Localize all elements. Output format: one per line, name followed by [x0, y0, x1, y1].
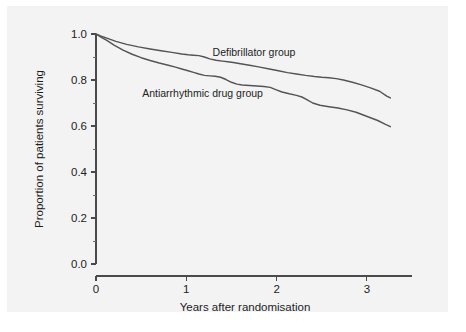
curve-label: Defibrillator group — [213, 46, 296, 58]
x-axis: 0123 — [93, 276, 412, 295]
survival-plot: 0.00.20.40.60.81.0 0123 Defibrillator gr… — [7, 6, 448, 312]
series-annotations: Defibrillator groupAntiarrhythmic drug g… — [142, 46, 295, 99]
x-tick-label: 3 — [364, 283, 370, 295]
y-tick-label: 1.0 — [71, 28, 87, 40]
x-tick-label: 2 — [273, 283, 279, 295]
figure-root: 0.00.20.40.60.81.0 0123 Defibrillator gr… — [0, 0, 466, 332]
y-axis: 0.00.20.40.60.81.0 — [71, 28, 96, 270]
y-tick-label: 0.6 — [71, 120, 87, 132]
y-tick-label: 0.8 — [71, 74, 87, 86]
y-tick-label: 0.4 — [71, 166, 88, 178]
y-tick-label: 0.0 — [71, 258, 87, 270]
chart-panel: 0.00.20.40.60.81.0 0123 Defibrillator gr… — [7, 6, 448, 312]
x-tick-label: 1 — [183, 283, 189, 295]
y-tick-label: 0.2 — [71, 212, 87, 224]
curve-label: Antiarrhythmic drug group — [142, 87, 263, 99]
y-axis-title: Proportion of patients surviving — [33, 70, 45, 228]
x-axis-title: Years after randomisation — [180, 301, 311, 312]
x-tick-label: 0 — [93, 283, 99, 295]
